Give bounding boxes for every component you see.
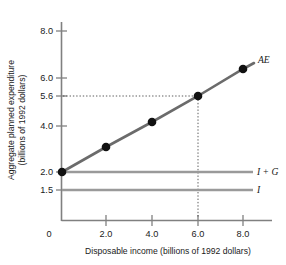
x-axis-title: Disposable income (billions of 1992 doll… — [85, 246, 251, 256]
y-axis-title-line2: (billions of 1992 dollars) — [17, 74, 27, 165]
aggregate-expenditure-chart: 8.0 6.0 5.6 4.0 2.0 1.5 0 2.0 4.0 6.0 8.… — [0, 0, 286, 265]
ae-data-point — [102, 143, 111, 152]
y-tick-label-4: 4.0 — [40, 121, 53, 131]
y-tick-label-2: 2.0 — [40, 167, 53, 177]
ae-data-point — [239, 65, 248, 74]
series-label-i-plus-g: I + G — [256, 166, 278, 177]
x-tick-label-0: 0 — [46, 229, 51, 239]
y-tick-label-1-5: 1.5 — [40, 185, 53, 195]
ae-data-point — [58, 168, 67, 177]
ae-data-point — [148, 118, 157, 127]
x-tick-label-6: 6.0 — [192, 229, 205, 239]
y-tick-label-6: 6.0 — [40, 73, 53, 83]
series-label-ae: AE — [257, 54, 270, 65]
ae-data-point — [194, 92, 203, 101]
y-axis-title-line1: Aggregate planned expenditure — [6, 60, 16, 180]
y-tick-label-5-6: 5.6 — [40, 91, 53, 101]
aggregate-expenditure-line — [62, 63, 254, 172]
x-tick-label-2: 2.0 — [100, 229, 113, 239]
chart-canvas: 8.0 6.0 5.6 4.0 2.0 1.5 0 2.0 4.0 6.0 8.… — [0, 0, 286, 265]
equilibrium-guide-lines — [63, 96, 198, 218]
series-label-i: I — [256, 184, 261, 195]
y-tick-label-8: 8.0 — [40, 26, 53, 36]
x-tick-label-4: 4.0 — [146, 229, 159, 239]
x-tick-label-8: 8.0 — [237, 229, 250, 239]
